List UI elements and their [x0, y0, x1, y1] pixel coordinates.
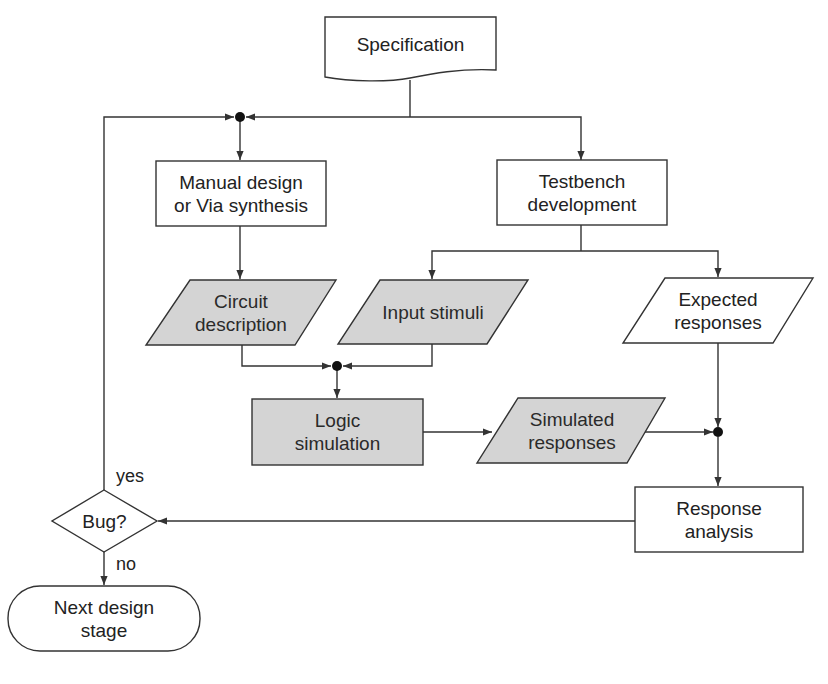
- connector-spec-to-testbench: [410, 117, 581, 160]
- node-specification: Specification: [325, 17, 496, 72]
- junction-dot-middle: [332, 361, 342, 371]
- node-next-stage: Next design stage: [8, 586, 200, 651]
- node-manual-design: Manual design or Via synthesis: [156, 161, 326, 226]
- node-expected-responses: Expected responses: [643, 278, 793, 343]
- node-circuit-description: Circuit description: [166, 280, 316, 345]
- node-simulated-responses: Simulated responses: [497, 398, 647, 463]
- edge-label-yes: yes: [116, 466, 144, 487]
- edge-label-no: no: [116, 554, 136, 575]
- node-logic-simulation: Logic simulation: [252, 399, 423, 465]
- junction-dot-right: [713, 427, 723, 437]
- connector-testbench-to-expected: [581, 251, 718, 277]
- connector-input-to-junction: [343, 344, 432, 366]
- node-response-analysis: Response analysis: [635, 487, 803, 552]
- connector-testbench-to-input: [432, 251, 581, 279]
- junction-dot-top: [235, 112, 245, 122]
- node-testbench: Testbench development: [497, 160, 667, 225]
- node-input-stimuli: Input stimuli: [358, 280, 508, 344]
- node-bug-decision: Bug?: [52, 490, 157, 552]
- connector-circuit-to-junction: [242, 345, 331, 366]
